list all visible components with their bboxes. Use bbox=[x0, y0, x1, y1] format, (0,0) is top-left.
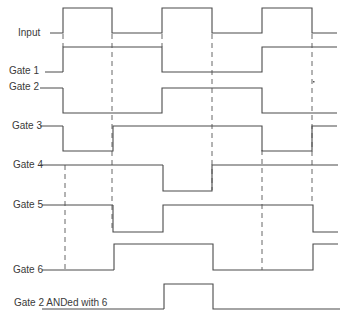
gate6-waveform bbox=[114, 244, 338, 270]
gate2-waveform bbox=[63, 88, 337, 113]
label-gate-3: Gate 3 bbox=[12, 121, 42, 131]
gate5-waveform bbox=[113, 205, 338, 232]
label-gate-4: Gate 4 bbox=[13, 160, 43, 170]
label-gate-2: Gate 2 bbox=[9, 82, 39, 92]
stray-marks bbox=[313, 81, 315, 83]
signal-waveforms bbox=[40, 8, 340, 309]
label-input: Input bbox=[18, 28, 40, 38]
gate3-waveform bbox=[63, 126, 337, 151]
label-gate-5: Gate 5 bbox=[13, 200, 43, 210]
timing-diagram bbox=[0, 0, 351, 318]
gate1-waveform bbox=[63, 47, 337, 72]
stray-dot bbox=[313, 81, 315, 83]
label-gate-2-anded-with-6: Gate 2 ANDed with 6 bbox=[14, 298, 107, 308]
label-gate-1: Gate 1 bbox=[9, 66, 39, 76]
input-waveform bbox=[62, 8, 337, 33]
and26-waveform bbox=[164, 284, 340, 309]
label-gate-6: Gate 6 bbox=[13, 265, 43, 275]
alignment-dashed-lines bbox=[63, 34, 312, 270]
